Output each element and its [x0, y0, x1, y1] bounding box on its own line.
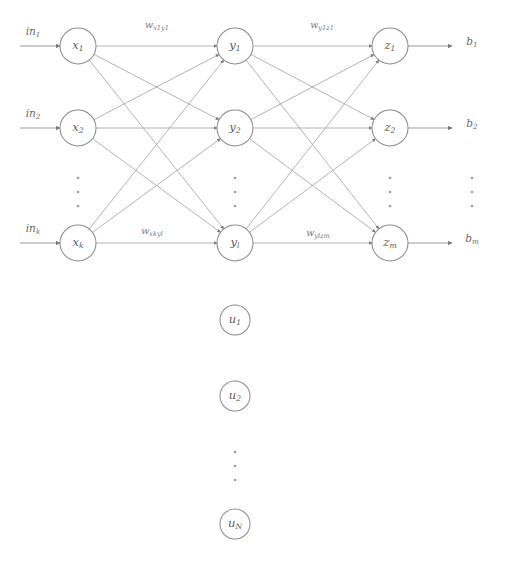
edges-input-to-hidden: [89, 46, 224, 243]
weight-label-w-x1y1: wx1y1: [145, 19, 169, 32]
hidden-ellipsis-dot-2: [234, 205, 237, 208]
output-label-b2: b2: [466, 117, 478, 131]
context-ellipsis-dot-2: [234, 479, 237, 482]
output-ellipsis-dot-1: [389, 191, 392, 194]
out-label-ellipsis-dot-1: [471, 191, 474, 194]
ellipsis-dots-group: [77, 177, 474, 482]
network-canvas: x1x2xky1y2ylz1z2zmu1u2uNin1in2inkb1b2bmw…: [0, 0, 505, 565]
out-label-ellipsis-dot-0: [471, 177, 474, 180]
weight-label-w-xkyl: wxkyl: [141, 225, 163, 238]
weight-label-w-y1z1: wy1z1: [310, 19, 334, 32]
neural-network-diagram: x1x2xky1y2ylz1z2zmu1u2uNin1in2inkb1b2bmw…: [0, 0, 505, 565]
input-label-ink: ink: [26, 222, 40, 236]
input-ellipsis-dot-1: [77, 191, 80, 194]
output-label-b1: b1: [466, 35, 477, 49]
input-label-in1: in1: [26, 25, 41, 39]
context-ellipsis-dot-0: [234, 451, 237, 454]
input-ellipsis-dot-2: [77, 205, 80, 208]
output-label-bm: bm: [465, 232, 479, 246]
hidden-ellipsis-dot-0: [234, 177, 237, 180]
output-ellipsis-dot-2: [389, 205, 392, 208]
nodes-group: [60, 28, 408, 539]
input-ellipsis-dot-0: [77, 177, 80, 180]
weight-label-w-ylzm: wylzm: [306, 227, 330, 240]
context-ellipsis-dot-1: [234, 465, 237, 468]
hidden-ellipsis-dot-1: [234, 191, 237, 194]
text-labels-group: x1x2xky1y2ylz1z2zmu1u2uNin1in2inkb1b2bmw…: [26, 19, 479, 531]
input-label-in2: in2: [26, 107, 41, 121]
out-label-ellipsis-dot-2: [471, 205, 474, 208]
edges-hidden-to-output: [246, 46, 379, 243]
output-ellipsis-dot-0: [389, 177, 392, 180]
